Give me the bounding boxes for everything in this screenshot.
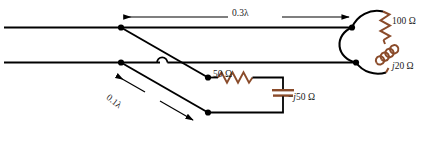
- wire-crossover-hop: [157, 57, 356, 62]
- label-antenna-resistance: 100 Ω: [392, 17, 416, 27]
- figure-canvas: 0.3λ 0.1λ 100 Ω j20 Ω 50 Ω −j50 Ω: [0, 0, 444, 143]
- antenna-resistor-symbol: [381, 12, 391, 41]
- label-stub-resistor: 50 Ω: [213, 70, 232, 80]
- label-antenna-reactance-value: 20 Ω: [395, 61, 414, 71]
- junction-dot-lower: [118, 59, 124, 65]
- label-main-line-length: 0.3λ: [232, 9, 248, 19]
- antenna-feed-dot-upper: [349, 24, 355, 30]
- label-stub-capacitor: −j50 Ω: [288, 93, 315, 103]
- label-stub-capacitor-value: 50 Ω: [296, 92, 315, 102]
- label-antenna-reactance: j20 Ω: [392, 62, 414, 72]
- junction-dot-upper: [118, 24, 124, 30]
- antenna-feed-dot-lower: [353, 59, 359, 65]
